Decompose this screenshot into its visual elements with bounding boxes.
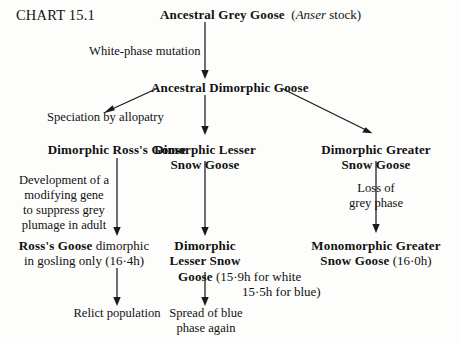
lesser-final-line3: Goose (15·9h for white [150,269,380,284]
loss-grey-line2: grey phase [330,196,422,211]
node-monomorphic-greater-snow-goose-final: Monomorphic Greater Snow Goose (16·0h) [296,238,456,269]
greater-final-line1: Monomorphic Greater [296,238,456,253]
edge-label-white-phase-mutation: White-phase mutation [89,44,201,59]
lesser-final-blue-measure: 15·5h for blue) [150,284,380,299]
node-dimorphic-greater-snow-goose: Dimorphic Greater Snow Goose [321,142,431,173]
anser-stock-suffix: stock) [326,7,361,22]
anser-genus-name: Anser [296,7,326,22]
arrowhead-dimorphic-to-lesser [201,126,208,135]
spread-line2: phase again [158,321,254,336]
edge-label-loss-of-grey-phase: Loss of grey phase [330,181,422,211]
greater-final-line2: Snow Goose (16·0h) [296,253,456,268]
node-ancestral-grey-goose: Ancestral Grey Goose (Anser stock) [160,7,361,22]
node-dimorphic-lesser-line1: Dimorphic Lesser [150,142,260,157]
edge-dimorphic-to-greater [283,89,366,130]
lesser-final-goose-bold: Goose [178,269,213,284]
arrowhead-ross-to-ross-final [113,227,120,236]
node-rosss-goose-final: Ross's Goose dimorphic in gosling only (… [9,238,159,269]
rosss-goose-final-rest: dimorphic [92,238,149,253]
node-ancestral-grey-goose-label: Ancestral Grey Goose [160,7,285,22]
node-ancestral-dimorphic-goose: Ancestral Dimorphic Goose [151,80,259,95]
modifying-gene-line1: Development of a [18,173,110,188]
lesser-final-line1: Dimorphic [150,238,260,253]
modifying-gene-line2: modifying gene [18,188,110,203]
rosss-goose-final-line2: in gosling only (16·4h) [9,253,159,268]
greater-final-bold: Snow Goose [320,253,389,268]
rosss-goose-final-bold: Ross's Goose [19,238,93,253]
arrowhead-greater-to-greater-final [372,224,379,233]
modifying-gene-line3: to suppress grey [18,203,110,218]
arrowhead-dimorphic-to-greater [362,127,372,133]
arrowhead-ross-final-to-relict [113,297,120,306]
node-dimorphic-lesser-snow-goose: Dimorphic Lesser Snow Goose [150,142,260,173]
chart-figure: CHART 15.1 Ancestral Grey Goose (Anser s… [0,0,459,343]
node-dimorphic-lesser-line2: Snow Goose [150,157,260,172]
edge-label-modifying-gene: Development of a modifying gene to suppr… [18,173,110,232]
spread-line1: Spread of blue [158,306,254,321]
node-dimorphic-greater-line2: Snow Goose [321,157,431,172]
rosss-goose-final-line1: Ross's Goose dimorphic [9,238,159,253]
chart-number: CHART 15.1 [16,7,95,24]
lesser-final-line2: Lesser Snow [150,253,260,268]
loss-grey-line1: Loss of [330,181,422,196]
arrowhead-lesser-to-lesser-final [201,227,208,236]
edge-label-speciation-by-allopatry: Speciation by allopatry [47,110,164,125]
lesser-final-white-measure: (15·9h for white [213,269,301,284]
arrowhead-root-to-dimorphic [201,70,208,79]
node-dimorphic-greater-line1: Dimorphic Greater [321,142,431,157]
node-spread-of-blue-phase: Spread of blue phase again [158,306,254,336]
modifying-gene-line4: plumage in adult [18,218,110,233]
greater-final-measure: (16·0h) [389,253,431,268]
